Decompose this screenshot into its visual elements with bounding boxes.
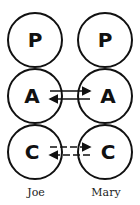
joe-label: Joe bbox=[26, 186, 45, 199]
ego-state-diagram: P A C Joe P A C Mary bbox=[0, 0, 140, 205]
mary-column: P A C Mary bbox=[78, 13, 132, 199]
mary-adult-letter: A bbox=[100, 84, 116, 108]
child-transaction-arrows bbox=[50, 147, 90, 155]
mary-child-letter: C bbox=[101, 140, 116, 164]
joe-child-letter: C bbox=[25, 140, 40, 164]
joe-parent-letter: P bbox=[28, 28, 43, 52]
mary-label: Mary bbox=[91, 186, 121, 199]
joe-column: P A C Joe bbox=[8, 13, 62, 199]
adult-transaction-arrows bbox=[50, 91, 90, 99]
mary-parent-letter: P bbox=[98, 28, 113, 52]
joe-adult-letter: A bbox=[24, 84, 40, 108]
